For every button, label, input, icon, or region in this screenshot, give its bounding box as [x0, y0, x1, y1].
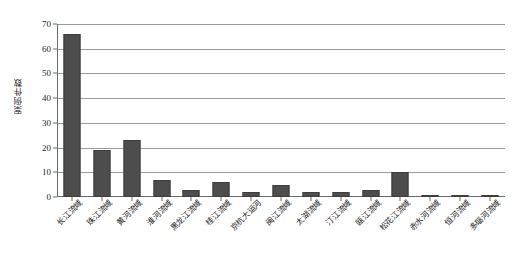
x-axis-category-label: 黄河流域: [115, 198, 144, 227]
x-axis-category-label: 长江流域: [55, 198, 84, 227]
bar-slot: [266, 24, 296, 197]
bar[interactable]: [272, 185, 289, 197]
bar-chart: 案例件数 706050403020100 长江流域珠江流域黄河流域淮河流域黑龙江…: [0, 0, 518, 254]
x-axis-category-label: 珠江流域: [85, 198, 114, 227]
bar-slot: [475, 24, 505, 197]
x-axis-category-label: 恒河流域: [444, 198, 473, 227]
bar-slot: [326, 24, 356, 197]
x-axis-category-label: 太湖流域: [294, 198, 323, 227]
bar-slot: [356, 24, 386, 197]
x-axis-category-label: 汀江流域: [324, 198, 353, 227]
x-axis-category-label: 赤水河流域: [408, 198, 443, 233]
y-axis-tick-label: 30: [42, 118, 51, 127]
y-axis-tick-label: 0: [47, 193, 52, 202]
bar[interactable]: [93, 150, 110, 197]
bar[interactable]: [183, 190, 200, 197]
x-axis-category-labels: 长江流域珠江流域黄河流域淮河流域黑龙江流域桂江流域京杭大运河闽江流域太湖流域汀江…: [57, 198, 505, 254]
y-axis-tick-label: 50: [42, 69, 51, 78]
x-axis-category-label: 桂江流域: [205, 198, 234, 227]
x-axis-category-label: 淮河流域: [145, 198, 174, 227]
bar[interactable]: [362, 190, 379, 197]
y-axis-tick-label: 70: [42, 20, 51, 29]
bar[interactable]: [213, 182, 230, 197]
bar-slot: [445, 24, 475, 197]
bar-slot: [415, 24, 445, 197]
x-axis-category-label: 闽江流域: [264, 198, 293, 227]
x-axis-category-label: 京杭大运河: [229, 198, 264, 233]
y-axis-tick-label: 10: [42, 168, 51, 177]
y-axis-tick-label: 40: [42, 94, 51, 103]
x-axis-category-label: 瓯江流域: [354, 198, 383, 227]
bar[interactable]: [153, 180, 170, 197]
bar[interactable]: [63, 34, 80, 197]
x-axis-category-label: 黑龙江流域: [169, 198, 204, 233]
y-axis-tick-labels: 706050403020100: [0, 24, 57, 197]
bar-slot: [206, 24, 236, 197]
bar[interactable]: [392, 172, 409, 197]
bar-series: [57, 24, 505, 197]
y-axis-tick-label: 60: [42, 44, 51, 53]
x-axis-category-label: 松花江流域: [378, 198, 413, 233]
bar-slot: [117, 24, 147, 197]
bar-slot: [87, 24, 117, 197]
bar-slot: [57, 24, 87, 197]
bar[interactable]: [123, 140, 140, 197]
x-axis-category-label: 多瑙河流域: [468, 198, 503, 233]
bar-slot: [176, 24, 206, 197]
bar-slot: [147, 24, 177, 197]
bar-slot: [386, 24, 416, 197]
y-axis-tick-label: 20: [42, 143, 51, 152]
bar-slot: [236, 24, 266, 197]
bar-slot: [296, 24, 326, 197]
